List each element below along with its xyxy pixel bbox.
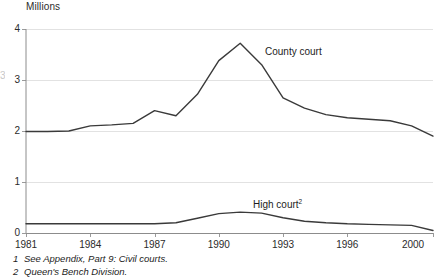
series-annotation-county-court: County court [265, 46, 322, 57]
y-axis-label: 1 [6, 176, 20, 187]
y-axis-label: 3 [6, 74, 20, 85]
y-axis-label: 4 [6, 23, 20, 34]
footnote-2-text: Queen's Bench Division. [24, 266, 127, 277]
x-axis-label: 1981 [6, 239, 46, 250]
x-axis-label: 1996 [327, 239, 367, 250]
chart-plot-area [0, 0, 434, 280]
x-axis-label: 1993 [263, 239, 303, 250]
y-axis-label: 0 [6, 227, 20, 238]
series-annotation-high-court: High court2 [253, 199, 302, 210]
x-axis-label: 1987 [135, 239, 175, 250]
footnote-1-number: 1 [13, 252, 24, 265]
chart-figure: 3 Millions 01234 19811984198719901993199… [0, 0, 434, 280]
footnotes: 1See Appendix, Part 9: Civil courts. 2Qu… [13, 252, 423, 278]
footnote-1: 1See Appendix, Part 9: Civil courts. [13, 252, 423, 265]
footnote-1-text: See Appendix, Part 9: Civil courts. [24, 253, 168, 264]
x-axis-label: 1990 [199, 239, 239, 250]
x-axis-label: 1984 [70, 239, 110, 250]
series-line-county-court [26, 43, 433, 136]
series-line-high-court [26, 212, 433, 230]
footnote-ref-2: 2 [299, 198, 303, 205]
footnote-2: 2Queen's Bench Division. [13, 265, 423, 278]
y-axis-label: 2 [6, 125, 20, 136]
x-axis-label: 2000 [393, 239, 433, 250]
footnote-2-number: 2 [13, 265, 24, 278]
